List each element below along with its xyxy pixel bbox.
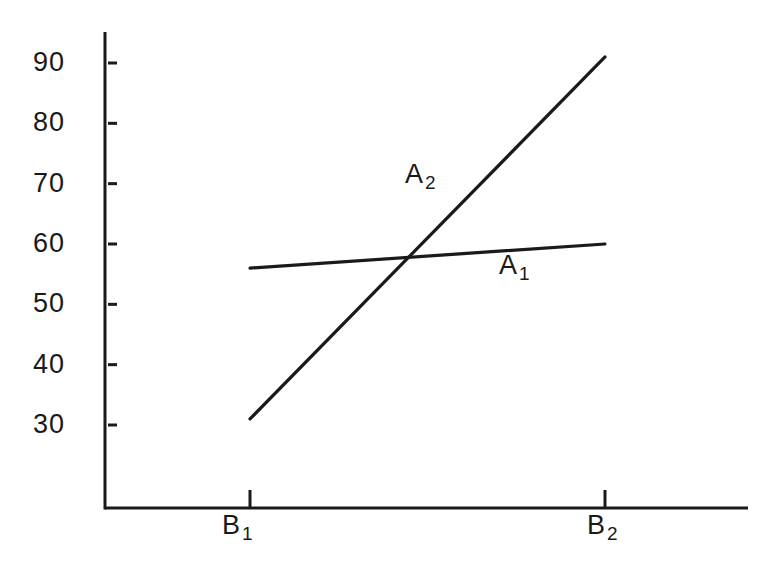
y-tick-label-50: 50	[18, 290, 65, 317]
x-tick-label-b1-subscript: 1	[242, 523, 253, 544]
x-tick-label-b2-base: B	[587, 510, 605, 540]
interaction-line-chart-figure: 30405060708090 B1 B2 A2 A1	[0, 0, 779, 580]
x-tick-label-b2: B2	[587, 512, 618, 539]
y-tick-label-80: 80	[18, 109, 65, 136]
y-tick-label-40: 40	[18, 351, 65, 378]
axes	[105, 32, 748, 510]
x-tick-label-b1: B1	[222, 512, 253, 539]
axis-ticks	[108, 63, 605, 508]
y-tick-label-70: 70	[18, 170, 65, 197]
y-tick-label-30: 30	[18, 411, 65, 438]
series-label-a2-base: A	[405, 159, 423, 189]
data-series-lines	[250, 57, 605, 419]
x-tick-label-b2-subscript: 2	[607, 523, 618, 544]
y-tick-label-90: 90	[18, 49, 65, 76]
series-label-a2-subscript: 2	[425, 172, 436, 193]
x-tick-label-b1-base: B	[222, 510, 240, 540]
series-label-a2: A2	[405, 161, 436, 188]
series-line-a1	[250, 244, 605, 268]
series-label-a1-base: A	[499, 250, 517, 280]
y-tick-label-60: 60	[18, 230, 65, 257]
series-label-a1: A1	[499, 252, 530, 279]
series-label-a1-subscript: 1	[519, 263, 530, 284]
plot-canvas	[0, 0, 779, 580]
series-line-a2	[250, 57, 605, 419]
